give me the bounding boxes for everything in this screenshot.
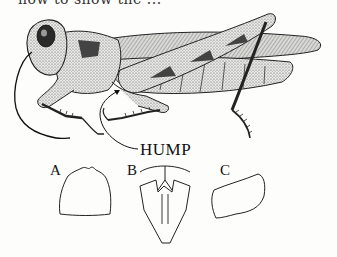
detail-a-outline	[59, 167, 110, 215]
detail-a-label: A	[50, 162, 61, 179]
detail-c-label: C	[220, 162, 230, 179]
grasshopper-illustration	[0, 0, 337, 257]
book-page: how to show the ...	[0, 0, 337, 257]
detail-b-outline	[140, 166, 190, 243]
compound-eye	[37, 25, 55, 47]
head	[27, 20, 67, 75]
hump-callout-label: HUMP	[140, 140, 191, 160]
detail-c-outline	[212, 174, 265, 218]
detail-b-label: B	[127, 162, 137, 179]
